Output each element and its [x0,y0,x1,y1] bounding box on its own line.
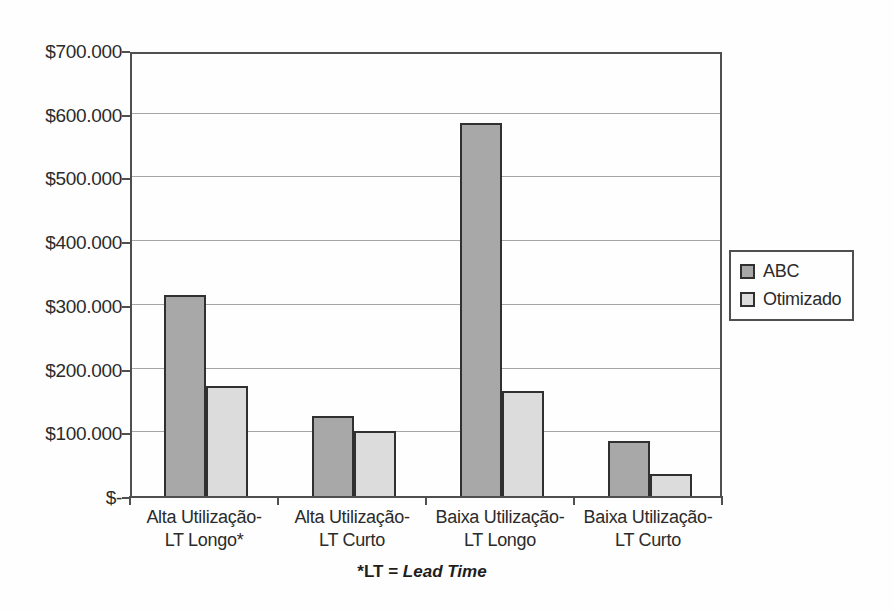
x-axis-label-line-2: LT Curto [571,529,725,552]
x-axis-label-line-1: Baixa Utilização- [423,506,577,529]
gridline [132,304,720,305]
bar-otimizado-2 [354,431,396,496]
y-axis-tick-label: $100.000 [0,423,124,445]
x-axis-label-line-1: Alta Utilização- [275,506,429,529]
bar-otimizado-3 [502,391,544,496]
x-axis-label-line-2: LT Curto [275,529,429,552]
legend-swatch-abc [740,264,755,279]
y-axis-tick-mark [122,242,130,244]
footnote-lead-time: Lead Time [403,562,487,581]
legend-item-abc: ABC [740,261,843,282]
y-axis-tick-mark [122,178,130,180]
y-axis-tick-label: $400.000 [0,232,124,254]
y-axis-tick-label: $500.000 [0,168,124,190]
x-axis-label-line-2: LT Longo* [127,529,281,552]
bar-chart: $-$100.000$200.000$300.000$400.000$500.0… [0,0,894,611]
x-axis-label-line-1: Baixa Utilização- [571,506,725,529]
x-axis-label-line-1: Alta Utilização- [127,506,281,529]
bar-otimizado-1 [206,386,248,496]
x-axis-category-label: Baixa Utilização-LT Curto [571,506,725,552]
gridline [132,368,720,369]
bar-otimizado-4 [650,474,692,496]
bar-abc-2 [312,416,354,496]
x-axis-tick-mark [129,496,131,505]
x-axis-tick-mark [425,496,427,505]
gridline [132,176,720,177]
y-axis-tick-label: $200.000 [0,360,124,382]
y-axis-tick-mark [122,370,130,372]
legend-swatch-otimizado [740,292,755,307]
y-axis-tick-label: $600.000 [0,105,124,127]
gridline [132,113,720,114]
y-axis-tick-mark [122,306,130,308]
x-axis-label-line-2: LT Longo [423,529,577,552]
y-axis-tick-label: $300.000 [0,296,124,318]
y-axis-tick-mark [122,51,130,53]
legend-item-otimizado: Otimizado [740,289,843,310]
bar-abc-1 [164,295,206,496]
footnote-prefix: *LT = [357,562,403,581]
gridline [132,240,720,241]
x-axis-tick-mark [721,496,723,505]
x-axis-category-label: Alta Utilização-LT Longo* [127,506,281,552]
y-axis-tick-mark [122,115,130,117]
y-axis-tick-label: $700.000 [0,41,124,63]
legend-label: Otimizado [763,289,841,310]
y-axis-tick-mark [122,433,130,435]
legend-label: ABC [763,261,799,282]
bar-abc-3 [460,123,502,496]
x-axis-category-label: Baixa Utilização-LT Longo [423,506,577,552]
y-axis-tick-label: $- [0,487,124,509]
x-axis-tick-mark [573,496,575,505]
x-axis-category-label: Alta Utilização-LT Curto [275,506,429,552]
bar-abc-4 [608,441,650,496]
footnote: *LT = Lead Time [357,562,486,582]
legend: ABCOtimizado [729,250,854,321]
plot-area [130,52,722,498]
x-axis-tick-mark [277,496,279,505]
